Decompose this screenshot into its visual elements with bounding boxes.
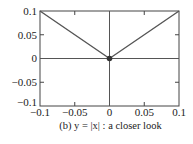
figure-caption: (b) y = |x| : a closer look — [0, 120, 193, 131]
x-tick-label: 0.05 — [135, 106, 155, 118]
origin-point — [107, 56, 113, 62]
y-tick-label: 0 — [32, 52, 38, 64]
y-tick-label: −0.05 — [12, 76, 38, 88]
y-tick-label: 0.1 — [23, 5, 37, 17]
x-tick-label: −0.05 — [62, 106, 88, 118]
x-tick-label: −0.1 — [30, 106, 50, 118]
x-tick-label: 0.1 — [172, 106, 186, 118]
y-tick-label: 0.05 — [18, 29, 38, 41]
x-tick-label: 0 — [107, 106, 113, 118]
